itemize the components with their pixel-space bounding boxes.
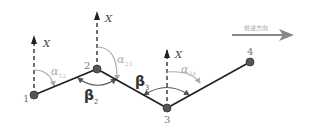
- alpha-subscript: 34: [188, 70, 196, 77]
- direction-label: 前进方向: [244, 25, 268, 31]
- north-axis-2: [94, 11, 100, 69]
- azimuth-label-23: α23: [117, 54, 132, 67]
- point-2-marker: [93, 65, 101, 73]
- azimuth-label-34: α34: [181, 64, 196, 77]
- beta-symbol: β: [135, 73, 145, 89]
- traverse-diagram: [0, 0, 310, 133]
- point-4-marker: [246, 58, 254, 66]
- axis-label-x-1: X: [43, 39, 50, 49]
- alpha-subscript: 23: [124, 60, 132, 67]
- turning-angle-label-3: β3: [135, 74, 150, 92]
- beta-symbol: β: [84, 87, 94, 103]
- beta-subscript: 2: [94, 98, 98, 106]
- beta-subscript: 3: [145, 84, 149, 92]
- north-axis-1: [31, 35, 37, 95]
- turning-arc-2: [78, 78, 116, 85]
- point-3-marker: [163, 104, 171, 112]
- point-label-4: 4: [247, 47, 253, 57]
- point-label-2: 2: [84, 61, 90, 71]
- point-label-1: 1: [23, 94, 29, 104]
- azimuth-label-12: α12: [51, 66, 66, 79]
- point-1-marker: [30, 91, 38, 99]
- alpha-subscript: 12: [58, 72, 66, 79]
- turning-angle-label-2: β2: [84, 88, 99, 106]
- north-axis-3: [164, 49, 170, 108]
- axis-label-x-3: X: [175, 50, 182, 60]
- axis-label-x-2: X: [105, 14, 112, 24]
- point-label-3: 3: [164, 115, 170, 125]
